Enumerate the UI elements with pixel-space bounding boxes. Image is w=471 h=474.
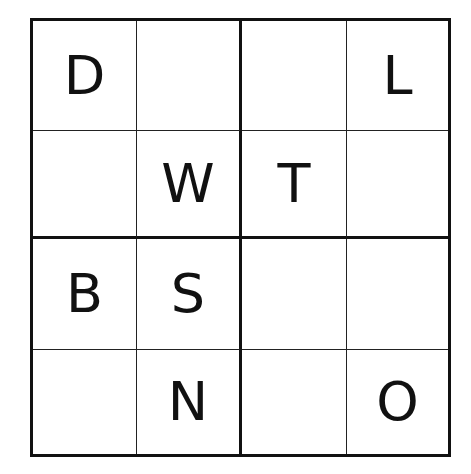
cell-r2-c2[interactable]: W (137, 131, 242, 239)
cell-r4-c1[interactable] (33, 350, 137, 454)
cell-r3-c4[interactable] (347, 239, 448, 350)
cell-r2-c1[interactable] (33, 131, 137, 239)
sudoku-grid: D L W T B S N O (30, 18, 451, 457)
cell-r1-c3[interactable] (242, 21, 347, 131)
cell-r1-c4[interactable]: L (347, 21, 448, 131)
cell-r4-c4[interactable]: O (347, 350, 448, 454)
cell-r3-c1[interactable]: B (33, 239, 137, 350)
cell-r1-c2[interactable] (137, 21, 242, 131)
cell-r3-c2[interactable]: S (137, 239, 242, 350)
cell-r4-c3[interactable] (242, 350, 347, 454)
cell-r2-c4[interactable] (347, 131, 448, 239)
cell-r1-c1[interactable]: D (33, 21, 137, 131)
cell-r4-c2[interactable]: N (137, 350, 242, 454)
cell-r3-c3[interactable] (242, 239, 347, 350)
cell-r2-c3[interactable]: T (242, 131, 347, 239)
